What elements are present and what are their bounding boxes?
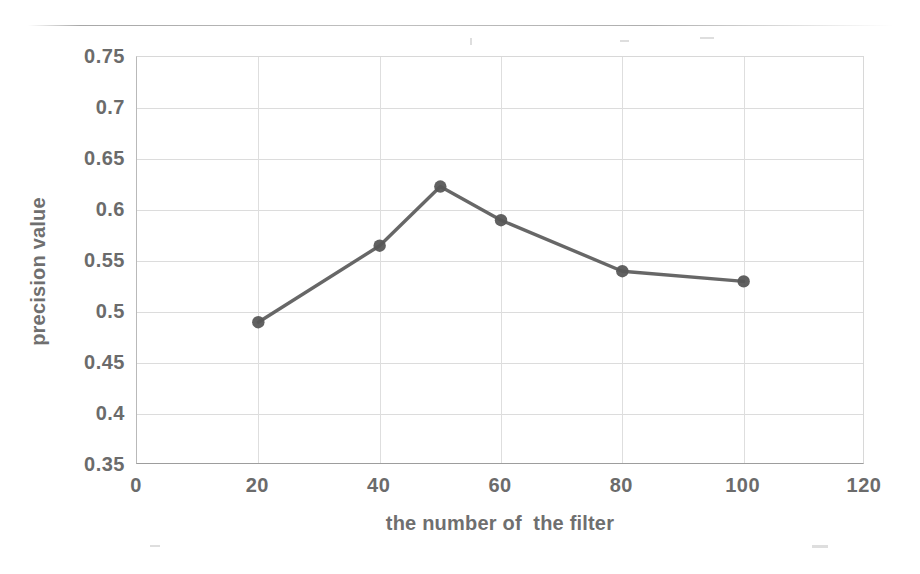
scan-speck <box>700 37 714 39</box>
x-tick-label: 60 <box>488 474 511 497</box>
x-tick-label: 120 <box>847 474 882 497</box>
x-tick-label: 80 <box>610 474 633 497</box>
scan-speck <box>812 545 828 548</box>
y-tick-label: 0.65 <box>84 147 125 170</box>
x-tick-label: 20 <box>246 474 269 497</box>
y-tick-label: 0.55 <box>84 249 125 272</box>
y-tick-label: 0.35 <box>84 453 125 476</box>
y-tick-label: 0.4 <box>96 402 125 425</box>
y-axis-tick-labels: 0.350.40.450.50.550.60.650.70.75 <box>0 0 125 574</box>
data-point-marker <box>373 240 385 252</box>
scan-speck <box>620 40 629 42</box>
x-tick-label: 100 <box>725 474 760 497</box>
chart-canvas: 0.350.40.450.50.550.60.650.70.75 0204060… <box>0 0 920 574</box>
data-point-marker <box>737 275 749 287</box>
data-point-marker <box>252 316 264 328</box>
scan-speck <box>150 545 160 547</box>
data-series-precision <box>137 57 865 465</box>
data-point-marker <box>495 214 507 226</box>
y-tick-label: 0.6 <box>96 198 125 221</box>
data-point-marker <box>616 265 628 277</box>
series-line <box>258 187 743 323</box>
plot-area <box>136 56 864 464</box>
x-tick-label: 0 <box>130 474 142 497</box>
y-tick-label: 0.75 <box>84 45 125 68</box>
y-axis-title: precision value <box>27 172 50 372</box>
y-tick-label: 0.5 <box>96 300 125 323</box>
y-tick-label: 0.45 <box>84 351 125 374</box>
scan-artifact-line <box>28 25 893 26</box>
x-tick-label: 40 <box>367 474 390 497</box>
x-axis-title: the number of the filter <box>136 512 864 535</box>
scan-speck <box>470 38 472 45</box>
data-point-marker <box>434 180 446 192</box>
y-tick-label: 0.7 <box>96 96 125 119</box>
